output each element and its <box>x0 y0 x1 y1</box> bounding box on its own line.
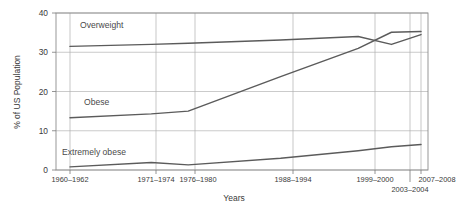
x-axis-title: Years <box>223 193 244 203</box>
y-axis-ticks <box>52 13 56 170</box>
series-label-extremely-obese: Extremely obese <box>62 147 126 157</box>
series-label-obese: Obese <box>84 97 110 107</box>
y-tick-label-40: 40 <box>39 8 49 18</box>
x-tick-label-1971-1974: 1971–1974 <box>138 175 175 184</box>
y-tick-label-20: 20 <box>39 87 49 97</box>
obesity-trend-line-chart: 40 30 20 10 0 % of US Population 1960–19… <box>0 0 468 208</box>
y-axis-title: % of US Population <box>12 55 22 129</box>
x-tick-label-1988-1994: 1988–1994 <box>275 175 312 184</box>
x-tick-label-1960-1962: 1960–1962 <box>52 175 89 184</box>
chart-figure: 40 30 20 10 0 % of US Population 1960–19… <box>0 0 468 208</box>
x-tick-label-2007-2008: 2007–2008 <box>419 175 456 184</box>
y-tick-label-0: 0 <box>43 165 48 175</box>
y-tick-label-10: 10 <box>39 126 49 136</box>
series-label-overweight: Overweight <box>80 20 124 30</box>
x-tick-label-2003-2004: 2003–2004 <box>392 185 429 194</box>
y-tick-label-30: 30 <box>39 47 49 57</box>
x-tick-label-1999-2000: 1999–2000 <box>357 175 394 184</box>
x-tick-label-1976-1980: 1976–1980 <box>180 175 217 184</box>
